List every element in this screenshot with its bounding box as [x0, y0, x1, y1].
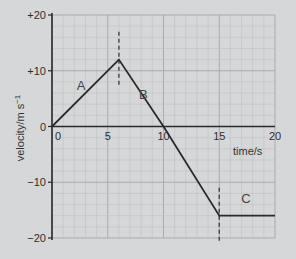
segment-label-a: A: [77, 78, 86, 93]
x-tick-label: 15: [213, 130, 225, 142]
x-axis-title: time/s: [233, 145, 263, 157]
y-tick-label: −10: [27, 176, 46, 188]
velocity-time-chart: +20+100−10−2005101520 ABC time/s velocit…: [0, 0, 296, 259]
y-tick-label: −20: [27, 232, 46, 244]
x-tick-label: 0: [55, 130, 61, 142]
y-tick-label: 0: [40, 121, 46, 133]
segment-label-b: B: [139, 87, 148, 102]
x-tick-label: 10: [157, 130, 169, 142]
y-tick-label: +10: [27, 65, 46, 77]
y-tick-label: +20: [27, 9, 46, 21]
x-tick-label: 20: [269, 130, 281, 142]
x-tick-label: 5: [105, 130, 111, 142]
segment-label-c: C: [241, 191, 250, 206]
y-axis-title: velocity/m s−1: [13, 94, 26, 161]
